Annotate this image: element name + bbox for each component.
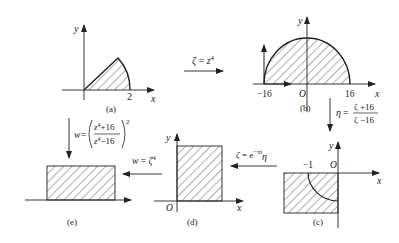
tick-left-label: −16 <box>257 89 272 99</box>
tick-right-label: 16 <box>345 89 355 99</box>
mapping-b-to-c: η = ζ +16 ζ −16 <box>330 98 378 131</box>
x-axis-label: x <box>374 88 380 99</box>
formula-lhs: w <box>74 130 81 140</box>
left-paren <box>89 120 92 148</box>
region <box>177 146 222 201</box>
tick-label: −1 <box>303 160 313 170</box>
mapping-formula: ζ = z4 <box>192 54 215 67</box>
y-axis-label: y <box>73 23 79 34</box>
mapping-a-to-b: ζ = z4 <box>184 54 223 71</box>
formula-rhs: η <box>262 151 267 162</box>
origin-label: O <box>330 160 337 170</box>
panel-a: y x 2 (a) <box>62 23 156 114</box>
formula-numerator: ζ +16 <box>354 102 375 112</box>
formula-eq: = <box>343 107 349 118</box>
panel-label: (c) <box>313 217 323 227</box>
origin-label: O <box>166 203 173 213</box>
y-axis-label: y <box>328 140 334 151</box>
panel-c: y x −1 O (c) <box>284 140 382 228</box>
right-paren <box>122 120 125 148</box>
num-rest: +16 <box>101 122 116 132</box>
formula-eq: = <box>138 156 148 166</box>
mapping-a-to-e: w = z4+16 z4−16 2 <box>69 118 130 158</box>
formula-numerator: z4+16 <box>93 122 115 132</box>
mapping-d-to-e: w = ζ4 <box>123 154 162 174</box>
region <box>284 173 338 213</box>
panel-d: y x O (d) <box>154 132 243 227</box>
panel-label: (d) <box>187 217 198 227</box>
panel-b: y x −16 O 16 (b) <box>253 15 380 113</box>
region <box>47 166 115 200</box>
conformal-mapping-diagram: y x 2 (a) ζ = z4 y x −16 O 16 (b) η = ζ … <box>0 0 399 243</box>
x-axis-label: x <box>376 175 382 186</box>
formula-eq: = <box>81 130 86 140</box>
formula-sup: −πi <box>253 148 262 155</box>
y-axis-label: y <box>297 15 303 26</box>
formula-eq: = e <box>240 150 254 160</box>
mapping-formula: w = ζ4 <box>132 154 156 167</box>
mapping-c-to-d: ζ = e−πiη <box>231 148 277 166</box>
formula-sup: 4 <box>211 54 215 62</box>
formula-denominator: z4−16 <box>93 136 115 146</box>
sector-region <box>84 58 130 90</box>
tick-label: 2 <box>127 91 132 102</box>
panel-label: (a) <box>106 104 116 114</box>
panel-e: (e) <box>25 166 131 227</box>
y-axis-label: y <box>165 132 171 143</box>
x-axis-label: x <box>150 93 156 104</box>
origin-label: O <box>299 89 306 99</box>
formula-denominator: ζ −16 <box>354 115 375 125</box>
panel-label: (b) <box>300 103 311 113</box>
formula-eq: = <box>196 55 207 66</box>
mapping-formula: ζ = e−πiη <box>236 148 267 162</box>
panel-label: (e) <box>67 217 77 227</box>
formula-lhs: η <box>336 107 341 118</box>
outer-exponent: 2 <box>126 118 130 126</box>
formula-sup: 4 <box>152 154 156 162</box>
x-axis-label: x <box>236 202 242 213</box>
den-rest: −16 <box>101 136 116 146</box>
